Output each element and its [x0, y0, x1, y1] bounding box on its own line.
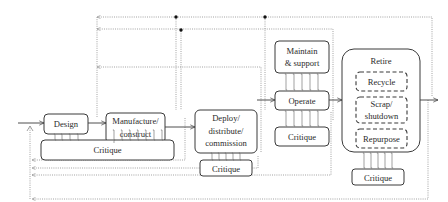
double-arrow-icon [286, 111, 318, 126]
scrap-label-line2: shutdown [365, 111, 399, 121]
deploy-label-line3: commission [205, 138, 247, 148]
critique-box-1: Critique [41, 140, 174, 160]
critique-label: Critique [288, 132, 316, 142]
stage-manufacture: Manufacture/ construct [106, 113, 165, 143]
stage-maintain: Maintain & support [275, 41, 329, 73]
critique-label: Critique [364, 173, 392, 183]
retire-option-repurpose: Repurpose [356, 129, 407, 148]
stage-deploy: Deploy/ distribute/ commission [195, 110, 257, 153]
junction-dot [263, 15, 266, 18]
critique-label: Critique [93, 145, 121, 155]
critique-box-4: Critique [352, 169, 404, 185]
maintain-label-line1: Maintain [286, 46, 318, 56]
double-arrow-icon [364, 153, 392, 168]
double-arrow-icon [55, 134, 78, 140]
recycle-label: Recycle [368, 77, 396, 87]
lifecycle-critique-diagram: Design Manufacture/ construct Deploy/ di… [0, 0, 448, 202]
double-arrow-icon [212, 153, 240, 160]
critique-box-3: Critique [275, 127, 329, 146]
manufacture-label-line1: Manufacture/ [112, 116, 159, 126]
junction-dot [174, 15, 177, 18]
manufacture-label-line2: construct [120, 129, 152, 139]
design-label: Design [54, 119, 79, 129]
maintain-label-line2: & support [285, 58, 320, 68]
junction-dot [179, 28, 182, 31]
retire-label: Retire [371, 56, 392, 66]
critique-box-2: Critique [200, 160, 252, 176]
retire-option-recycle: Recycle [356, 72, 407, 91]
scrap-label-line1: Scrap/ [371, 99, 394, 109]
retire-option-scrap: Scrap/ shutdown [356, 97, 407, 123]
double-arrow-icon [286, 74, 318, 90]
operate-label: Operate [288, 96, 315, 106]
deploy-label-line1: Deploy/ [212, 113, 240, 123]
stage-operate: Operate [275, 91, 329, 110]
stage-retire: Retire Recycle Scrap/ shutdown Repurpose [342, 49, 420, 152]
critique-label: Critique [212, 164, 240, 174]
repurpose-label: Repurpose [363, 134, 400, 144]
stage-design: Design [44, 114, 88, 134]
deploy-label-line2: distribute/ [209, 126, 244, 136]
